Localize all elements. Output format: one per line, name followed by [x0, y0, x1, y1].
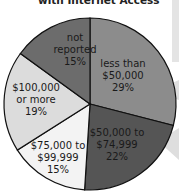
label-50000-to-74999: $50,000 to $74,999 22%	[88, 127, 146, 163]
label-not-reported: not reported 15%	[52, 32, 98, 68]
label-less-than-50000: less than $50,000 29%	[95, 58, 151, 94]
label-75000-to-99999: $75,000 to $99,999 15%	[30, 140, 86, 176]
label-100000-or-more: $100,000 or more 19%	[8, 82, 64, 118]
